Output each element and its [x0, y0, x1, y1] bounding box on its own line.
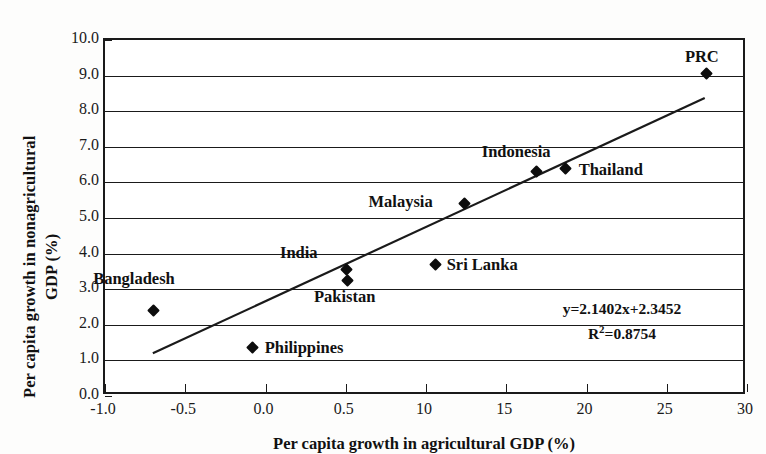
x-tick-label: 10 [394, 401, 454, 417]
r-squared-number: =0.8754 [605, 325, 656, 342]
x-tick-mark [266, 384, 267, 392]
gridline [105, 76, 743, 77]
y-tick-label: 4.0 [55, 244, 99, 260]
y-tick-mark [105, 218, 112, 219]
y-tick-label: 2.0 [55, 315, 99, 331]
data-label-india: India [280, 244, 318, 261]
y-tick-mark [105, 40, 112, 41]
y-tick-label: 5.0 [55, 208, 99, 224]
y-axis-title: Per capita growth in nonagricultural GDP… [0, 0, 58, 420]
gridline [105, 111, 743, 112]
x-tick-label: 15 [474, 401, 534, 417]
x-tick-mark [506, 384, 507, 392]
gridline [105, 289, 743, 290]
x-tick-label: 20 [555, 401, 615, 417]
data-label-bangladesh: Bangladesh [93, 270, 175, 287]
x-tick-mark [587, 384, 588, 392]
x-tick-label: 0.0 [234, 401, 294, 417]
y-tick-label: 8.0 [55, 101, 99, 117]
x-tick-mark [346, 384, 347, 392]
data-point-prc[interactable] [701, 67, 714, 80]
r-squared-value: R2=0.8754 [522, 321, 722, 346]
y-tick-mark [105, 396, 112, 397]
data-label-malaysia: Malaysia [369, 193, 433, 210]
gridline [105, 147, 743, 148]
y-tick-label: 7.0 [55, 137, 99, 153]
x-tick-label: -1.0 [73, 401, 133, 417]
gridline [105, 254, 743, 255]
x-tick-label: -0.5 [153, 401, 213, 417]
y-tick-mark [105, 111, 112, 112]
y-axis-title-line-1: Per capita growth in nonagricultural [20, 136, 40, 398]
gridline [105, 218, 743, 219]
y-tick-label: 1.0 [55, 350, 99, 366]
scatter-chart: Per capita growth in nonagricultural GDP… [0, 0, 766, 454]
regression-annotation: y=2.1402x+2.3452 R2=0.8754 [522, 296, 722, 346]
y-tick-mark [105, 182, 112, 183]
y-tick-mark [105, 76, 112, 77]
x-tick-mark [185, 384, 186, 392]
data-point-pakistan[interactable] [342, 274, 355, 287]
x-tick-mark [667, 384, 668, 392]
y-tick-mark [105, 360, 112, 361]
data-point-sri-lanka[interactable] [429, 259, 442, 272]
x-tick-label: 30 [715, 401, 766, 417]
x-tick-mark [105, 384, 106, 392]
x-axis-title: Per capita growth in agricultural GDP (%… [103, 434, 745, 454]
data-label-philippines: Philippines [265, 339, 344, 356]
x-tick-label: 25 [635, 401, 695, 417]
y-tick-mark [105, 325, 112, 326]
data-point-bangladesh[interactable] [147, 304, 160, 317]
y-tick-label: 10.0 [55, 30, 99, 46]
x-tick-mark [426, 384, 427, 392]
regression-equation: y=2.1402x+2.3452 [522, 296, 722, 321]
y-tick-label: 9.0 [55, 66, 99, 82]
data-label-thailand: Thailand [579, 161, 643, 178]
r-squared-symbol: R [588, 325, 599, 342]
data-point-indonesia[interactable] [530, 165, 543, 178]
x-axis-tick-labels: -1.0-0.50.00.51015202530 [103, 401, 745, 423]
data-point-malaysia[interactable] [458, 197, 471, 210]
data-point-philippines[interactable] [246, 342, 259, 355]
gridline [105, 182, 743, 183]
y-tick-mark [105, 254, 112, 255]
y-tick-mark [105, 289, 112, 290]
x-tick-label: 0.5 [314, 401, 374, 417]
y-axis-tick-labels: 0.01.02.03.04.05.06.07.08.09.010.0 [53, 38, 99, 394]
gridline [105, 360, 743, 361]
y-tick-mark [105, 147, 112, 148]
x-tick-mark [747, 384, 748, 392]
data-point-thailand[interactable] [559, 162, 572, 175]
data-label-sri-lanka: Sri Lanka [447, 256, 518, 273]
data-label-pakistan: Pakistan [314, 288, 375, 305]
y-tick-label: 6.0 [55, 172, 99, 188]
data-label-indonesia: Indonesia [482, 143, 551, 160]
data-label-prc: PRC [685, 48, 719, 65]
y-tick-label: 3.0 [55, 279, 99, 295]
